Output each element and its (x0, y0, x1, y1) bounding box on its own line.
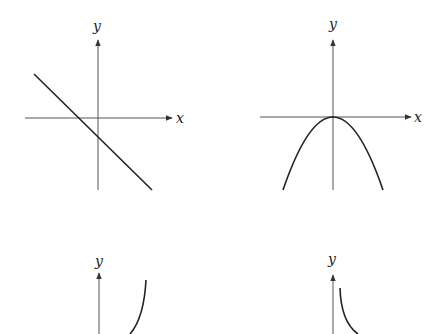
y-axis-label: y (328, 16, 338, 32)
y-axis-label: y (94, 253, 104, 269)
y-axis-label: y (92, 18, 102, 34)
x-axis-label: x (176, 110, 184, 126)
graph-2: x y (260, 16, 422, 190)
decreasing-curve (340, 288, 358, 334)
graph-4: y (327, 251, 358, 334)
x-axis-label: x (414, 109, 422, 125)
graphs-canvas: x y x y y y (0, 0, 446, 334)
line-curve (34, 74, 152, 190)
graph-1: x y (25, 18, 184, 190)
increasing-curve (130, 280, 146, 334)
graph-3: y (94, 253, 146, 334)
y-axis-label: y (327, 251, 337, 267)
